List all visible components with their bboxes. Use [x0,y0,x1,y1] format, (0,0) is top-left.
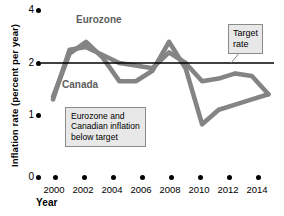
inflation-rate-chart: Inflation rate (percent per year) Year 4… [0,0,284,216]
target-rate-callout-line-2: rate [233,39,258,50]
eurozone-series-label: Eurozone [76,14,122,25]
target-rate-callout: Target rate [228,24,263,54]
below-target-callout-line-1: Eurozone and [71,111,140,121]
canada-series-label: Canada [62,79,98,90]
target-rate-callout-line-1: Target [233,28,258,39]
below-target-callout-line-2: Canadian inflation [71,121,140,131]
below-target-callout-line-3: below target [71,132,140,142]
below-target-callout: Eurozone and Canadian inflation below ta… [65,107,146,147]
